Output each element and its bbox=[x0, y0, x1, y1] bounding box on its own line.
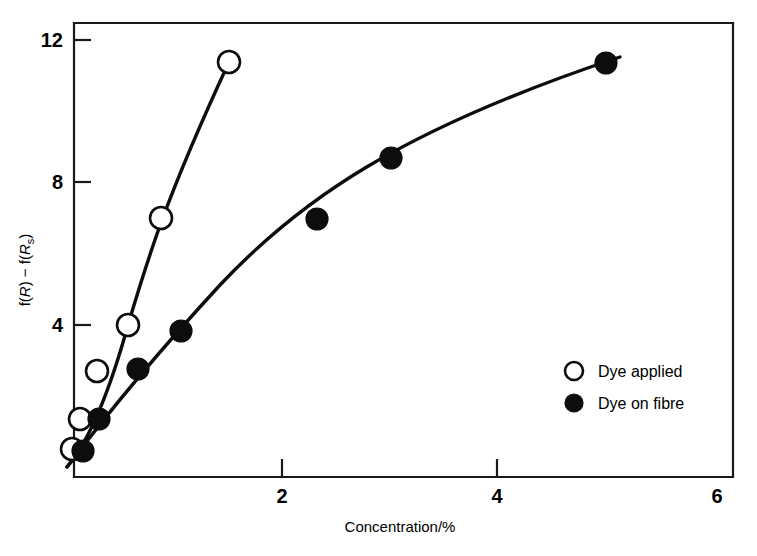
legend-marker-filled-circle-icon bbox=[565, 394, 583, 412]
y-axis-title-p1: f( bbox=[16, 297, 33, 306]
y-tick-label-8: 8 bbox=[52, 171, 63, 193]
data-point-filled bbox=[127, 358, 149, 380]
y-axis-title-p3: ) − f( bbox=[16, 255, 33, 286]
y-tick-label-4: 4 bbox=[52, 314, 64, 336]
chart-legend: Dye applied Dye on fibre bbox=[565, 362, 684, 412]
chart-figure: 12 8 4 2 4 6 Concentration/% f(R) − f(Rs… bbox=[0, 0, 757, 556]
data-point-open bbox=[117, 314, 139, 336]
data-point-filled bbox=[88, 408, 110, 430]
y-axis-ticks bbox=[74, 40, 91, 325]
y-axis-title-p6: ) bbox=[16, 234, 33, 239]
x-axis-title: Concentration/% bbox=[345, 518, 456, 535]
series-dye-on-fibre-markers bbox=[72, 52, 617, 462]
legend-label-dye-on-fibre: Dye on fibre bbox=[598, 395, 684, 412]
data-point-filled bbox=[380, 147, 402, 169]
data-point-filled bbox=[170, 320, 192, 342]
y-axis-title-p2: R bbox=[16, 286, 33, 297]
curve-dye-applied bbox=[67, 62, 229, 467]
legend-label-dye-applied: Dye applied bbox=[598, 363, 683, 380]
y-axis-title-p4: R bbox=[16, 244, 33, 255]
data-point-open bbox=[218, 51, 240, 73]
x-tick-label-6: 6 bbox=[711, 485, 722, 507]
data-point-filled bbox=[306, 208, 328, 230]
x-axis-ticks bbox=[282, 459, 497, 477]
chart-svg: 12 8 4 2 4 6 Concentration/% f(R) − f(Rs… bbox=[0, 0, 757, 556]
data-point-filled bbox=[72, 440, 94, 462]
data-point-open bbox=[86, 360, 108, 382]
legend-marker-open-circle-icon bbox=[565, 362, 583, 380]
data-point-open bbox=[150, 207, 172, 229]
x-tick-label-2: 2 bbox=[276, 485, 287, 507]
curve-dye-on-fibre bbox=[67, 57, 620, 467]
data-point-filled bbox=[595, 52, 617, 74]
x-tick-label-4: 4 bbox=[491, 485, 503, 507]
y-axis-title: f(R) − f(Rs) bbox=[16, 234, 36, 307]
y-tick-label-12: 12 bbox=[41, 29, 63, 51]
